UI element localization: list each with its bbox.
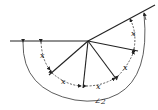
label-x-5: x xyxy=(131,29,136,38)
ray-down xyxy=(83,41,88,88)
ray-lower-right xyxy=(88,41,117,80)
label-x-4: x xyxy=(123,63,128,72)
label-x-1: x xyxy=(40,51,45,60)
label-x-2: x xyxy=(61,77,66,86)
label-angle-2: ∠2 xyxy=(94,97,106,106)
angle-arc-x-2 xyxy=(52,73,81,86)
label-x-3: x xyxy=(96,82,101,91)
angle-diagram: x x x x x ∠2 xyxy=(0,0,158,110)
ray-lower-left xyxy=(49,41,88,75)
ray-right xyxy=(88,41,138,51)
